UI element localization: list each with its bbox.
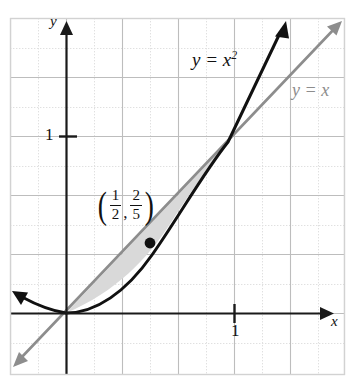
parabola-equation-base: y = x	[192, 49, 231, 70]
parabola-equation-label: y = x2	[192, 50, 237, 69]
centroid-coordinate-label: ( 1 2 , 2 5 )	[96, 188, 156, 222]
coord-open-paren: (	[98, 190, 107, 221]
x-axis-label: x	[331, 314, 338, 329]
coord-x-fraction: 1 2	[110, 188, 122, 222]
coord-x-denominator: 2	[110, 207, 122, 223]
coord-x-numerator: 1	[110, 188, 122, 204]
coordinate-plane	[0, 0, 352, 388]
graph-figure: y = x2 y = x y x 1 1 ( 1 2 , 2 5 )	[0, 0, 352, 388]
coord-y-numerator: 2	[130, 188, 142, 204]
coord-separator: ,	[122, 204, 129, 222]
y-axis-label: y	[50, 14, 57, 29]
centroid-point-marker	[145, 238, 156, 249]
coord-y-fraction: 2 5	[130, 188, 142, 222]
x-axis-tick-label-1: 1	[231, 322, 240, 339]
parabola-equation-exponent: 2	[231, 49, 237, 62]
coord-y-denominator: 5	[130, 207, 142, 223]
identity-line-equation-label: y = x	[292, 81, 329, 99]
coord-close-paren: )	[145, 190, 154, 221]
y-axis-tick-label-1: 1	[45, 126, 54, 143]
